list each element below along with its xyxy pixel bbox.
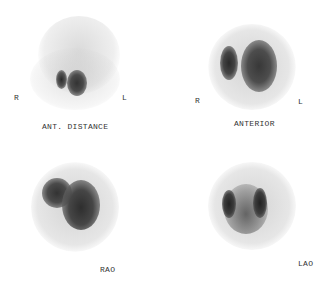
scan-uptake-left-wall <box>253 188 267 218</box>
view-caption: ANTERIOR <box>234 119 275 128</box>
scan-uptake-right <box>56 70 67 89</box>
scan-uptake-right-wall <box>222 190 236 218</box>
scan-uptake-left-chamber <box>241 40 277 92</box>
scan-uptake-left <box>67 70 87 96</box>
view-caption: RAO <box>100 265 115 274</box>
scan-ant-distance: R L ANT. DISTANCE <box>0 0 166 144</box>
scan-lao: LAO <box>166 144 332 288</box>
scan-uptake-lower-lobe <box>62 180 100 230</box>
scan-rao: RAO <box>0 144 166 288</box>
view-caption: LAO <box>298 259 313 268</box>
marker-right: R <box>195 96 200 105</box>
scan-anterior: R L ANTERIOR <box>166 0 332 144</box>
marker-left: L <box>298 97 303 106</box>
view-caption: ANT. DISTANCE <box>42 122 108 131</box>
marker-left: L <box>122 93 127 102</box>
scan-uptake-right-chamber <box>220 46 238 80</box>
marker-right: R <box>14 93 19 102</box>
